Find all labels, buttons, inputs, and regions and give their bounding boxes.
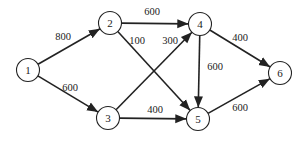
edge-weight-4-6: 400: [232, 32, 248, 43]
edge-weight-1-3: 600: [62, 82, 78, 93]
node-label: 4: [197, 18, 203, 30]
edge-weight-4-5: 600: [207, 61, 223, 72]
edge-3-4: [116, 32, 192, 110]
edge-weight-1-2: 800: [55, 31, 71, 42]
node-label: 2: [107, 17, 113, 29]
node-label: 6: [277, 67, 283, 79]
node-6: 6: [269, 62, 292, 85]
edge-weight-2-4: 600: [144, 6, 160, 17]
edge-4-5: [198, 35, 200, 107]
edge-3-5: [119, 118, 186, 119]
graph-diagram: 800600600100300400600400600 123456: [0, 0, 304, 141]
edge-arrow: [198, 35, 200, 107]
edge-2-4: [121, 23, 188, 24]
edge-weight-2-5: 100: [129, 35, 145, 46]
edge-weight-3-5: 400: [147, 104, 163, 115]
node-3: 3: [97, 107, 120, 130]
node-5: 5: [187, 108, 210, 131]
edge-weight-3-4: 300: [162, 35, 178, 46]
edge-weight-5-6: 600: [232, 102, 248, 113]
node-4: 4: [189, 13, 212, 36]
node-2: 2: [99, 12, 122, 35]
node-1: 1: [17, 59, 40, 82]
node-label: 1: [25, 64, 31, 76]
node-label: 3: [105, 112, 111, 124]
edge-arrow: [119, 118, 186, 119]
edge-arrow: [121, 23, 188, 24]
edge-arrow: [116, 32, 192, 110]
node-label: 5: [195, 113, 201, 125]
